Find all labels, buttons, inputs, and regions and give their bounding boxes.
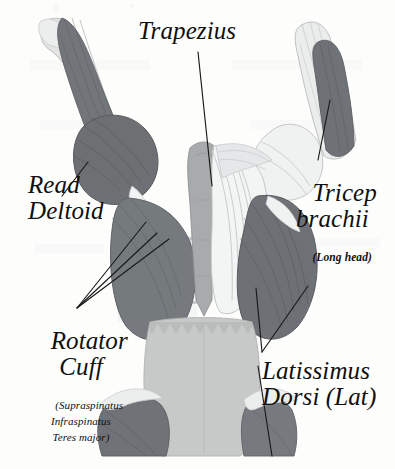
label-tricep-brachii-sub: (Long head) (312, 251, 372, 263)
anatomy-diagram: Trapezius Read Deltoid Tricep brachii (L… (0, 0, 395, 469)
label-rotator-cuff-text: Rotator Cuff (51, 327, 128, 380)
label-rotator-cuff-sub: (Supraspinatus Infraspinatus Teres major… (51, 399, 123, 444)
label-tricep-brachii: Tricep brachii (Long head) (296, 164, 377, 280)
label-rotator-cuff: Rotator Cuff (Supraspinatus Infraspinatu… (22, 312, 140, 461)
label-latissimus-dorsi: Latissimus Dorsi (Lat) (262, 358, 376, 409)
label-trapezius: Trapezius (138, 18, 236, 44)
label-read-deltoid: Read Deltoid (28, 172, 104, 223)
label-tricep-brachii-text: Tricep brachii (296, 179, 377, 232)
